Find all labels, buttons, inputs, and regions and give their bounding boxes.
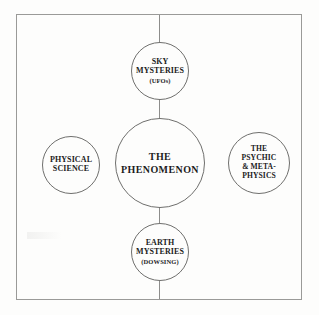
node-earth-mysteries-label: EARTH MYSTERIES (DOWSING)	[132, 239, 188, 265]
node-sky-subtitle: (UFOs)	[132, 77, 188, 84]
connector-line-bottom-edge	[159, 281, 160, 299]
node-earth-mysteries: EARTH MYSTERIES (DOWSING)	[131, 223, 189, 281]
diagram-canvas: SKY MYSTERIES (UFOs) PHYSICAL SCIENCE TH…	[0, 0, 319, 315]
node-sky-mysteries-label: SKY MYSTERIES (UFOs)	[132, 58, 188, 84]
node-physical-science-label: PHYSICAL SCIENCE	[43, 156, 99, 174]
node-earth-line-2: MYSTERIES	[132, 248, 188, 257]
node-psychic-metaphysics: THE PSYCHIC & META- PHYSICS	[228, 132, 290, 194]
node-psychic-line-4: PHYSICS	[229, 172, 289, 181]
connector-line-sky-to-center	[159, 99, 160, 119]
node-center-line-2: PHENOMENON	[116, 163, 204, 177]
connector-line-top-edge	[159, 15, 160, 43]
connector-line-center-to-earth	[159, 207, 160, 223]
node-sky-mysteries: SKY MYSTERIES (UFOs)	[131, 42, 189, 100]
node-physical-line-2: SCIENCE	[43, 165, 99, 174]
node-physical-science: PHYSICAL SCIENCE	[42, 136, 100, 194]
node-earth-subtitle: (DOWSING)	[132, 258, 188, 265]
node-center-line-1: THE	[116, 150, 204, 164]
node-the-phenomenon: THE PHENOMENON	[115, 118, 205, 208]
node-the-phenomenon-label: THE PHENOMENON	[116, 150, 204, 177]
node-sky-line-2: MYSTERIES	[132, 67, 188, 76]
node-psychic-metaphysics-label: THE PSYCHIC & META- PHYSICS	[229, 145, 289, 181]
